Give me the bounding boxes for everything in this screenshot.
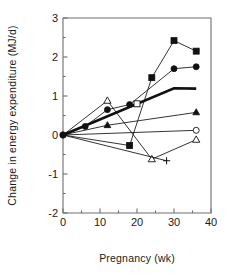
y-tick-label: -1 — [48, 168, 58, 180]
y-tick-label: 2 — [52, 51, 58, 63]
y-axis-title: Change in energy expenditure (MJ/d) — [6, 25, 18, 205]
y-tick-label: 3 — [52, 12, 58, 24]
series-line-plus — [63, 135, 167, 161]
data-point-filled-square — [149, 75, 155, 81]
x-tick-label: 40 — [205, 216, 217, 228]
data-point-filled-square — [171, 38, 177, 44]
x-tick-label: 20 — [131, 216, 143, 228]
series-line-thick-no-marker — [63, 88, 196, 135]
data-point-open-triangle — [104, 97, 111, 103]
data-point-filled-circle — [171, 66, 177, 72]
data-point-open-circle — [193, 127, 199, 133]
data-point-open-square — [134, 101, 140, 107]
data-point-filled-circle — [104, 107, 110, 113]
origin-marker-cluster — [60, 132, 66, 138]
data-point-open-triangle — [193, 136, 200, 142]
y-tick-label: -2 — [48, 207, 58, 219]
data-point-filled-circle — [193, 64, 199, 70]
x-tick-label: 30 — [168, 216, 180, 228]
series-thick-no-marker — [63, 88, 196, 135]
series-filled-circle — [63, 64, 199, 135]
data-point-plus — [163, 157, 170, 164]
data-point-origin — [60, 132, 66, 138]
line-chart: -2-10123010203040 Change in energy expen… — [0, 0, 234, 277]
data-series-group — [60, 38, 200, 165]
data-point-filled-triangle — [193, 109, 200, 115]
data-point-filled-square — [127, 143, 133, 149]
series-line-filled-triangle — [63, 112, 196, 135]
chart-figure: -2-10123010203040 Change in energy expen… — [0, 0, 234, 277]
data-point-filled-square — [193, 48, 199, 54]
series-line-open-triangle — [63, 101, 196, 159]
axis-titles: Change in energy expenditure (MJ/d)Pregn… — [6, 25, 175, 264]
x-tick-label: 0 — [60, 216, 66, 228]
y-tick-label: 0 — [52, 129, 58, 141]
axis-tick-labels: -2-10123010203040 — [48, 12, 217, 228]
x-tick-label: 10 — [94, 216, 106, 228]
y-tick-label: 1 — [52, 90, 58, 102]
series-line-open-square — [63, 104, 137, 135]
x-axis-title: Pregnancy (wk) — [99, 252, 175, 264]
